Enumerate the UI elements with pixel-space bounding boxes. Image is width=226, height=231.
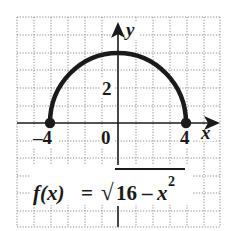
formula-var: x [156,181,168,205]
formula-lhs: f(x) [33,181,64,205]
formula-equals: = [81,181,93,205]
formula-minus: – [141,181,153,205]
y-axis-label: y [124,19,135,40]
formula-exponent: 2 [168,174,175,189]
tick-label-y-2: 2 [102,78,112,99]
tick-label-x-neg4: –4 [32,127,53,148]
tick-label-origin: 0 [101,127,111,148]
radical-sign-icon: √ [101,180,114,205]
formula-const: 16 [116,181,137,205]
x-axis-label: x [200,122,211,143]
function-graph: y x 2 –4 0 4 f(x) = √ 16 – x 2 [0,0,226,231]
tick-label-x-pos4: 4 [180,127,190,148]
